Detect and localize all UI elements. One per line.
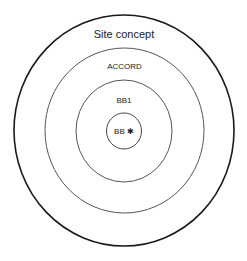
label-bb-star: BB ✱ (114, 127, 134, 136)
label-bb1: BB1 (116, 96, 131, 105)
label-site-concept: Site concept (94, 28, 155, 40)
label-accord: ACCORD (107, 62, 142, 71)
